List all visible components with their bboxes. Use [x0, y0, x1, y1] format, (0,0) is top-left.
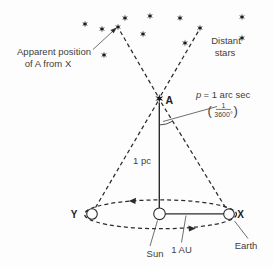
- distant-stars-label-line2: stars: [215, 47, 236, 58]
- distant-star-icon: [115, 24, 121, 31]
- au-label: 1 AU: [171, 244, 192, 255]
- sun-label: Sun: [147, 248, 164, 259]
- distant-star-icon: [197, 25, 203, 32]
- sun-pointer-line: [150, 221, 158, 247]
- distant-star-icon: [182, 40, 188, 47]
- point-y-label: Y: [71, 209, 78, 220]
- orbit-arrow-right-icon: [188, 225, 195, 231]
- fraction-denominator: 3600°: [214, 111, 233, 118]
- star-a-glyph: [155, 94, 163, 103]
- earth-pointer-line: [235, 221, 249, 239]
- sun-circle: [154, 208, 166, 220]
- au-pointer-line: [182, 216, 187, 243]
- apparent-position-label-line2: of A from X: [25, 58, 72, 69]
- star-a-icon: [155, 94, 163, 103]
- apparent-position-label-line1: Apparent position: [17, 46, 91, 57]
- sight-line-a-to-distant-star: [161, 31, 199, 96]
- sight-line-a-to-apparent-star: [120, 30, 158, 96]
- star-a-label: A: [166, 94, 174, 106]
- orbit-arrow-left-icon: [129, 198, 136, 204]
- fraction-numerator: 1: [222, 102, 226, 109]
- fraction-open-paren: (: [208, 103, 213, 118]
- distant-star-icon: [99, 26, 105, 33]
- distant-star-icon: [122, 15, 128, 22]
- point-y-circle: [87, 209, 98, 220]
- parallax-angle-arc: [159, 121, 172, 125]
- parallax-diagram: Apparent position of A from X Distant st…: [0, 0, 273, 267]
- distant-star-icon: [147, 13, 153, 20]
- distant-star-icon: [140, 31, 146, 38]
- point-x-label: X: [237, 209, 244, 220]
- distant-star-icon: [101, 52, 107, 59]
- parallax-label-var: p: [195, 89, 201, 100]
- distant-stars-label-line1: Distant: [211, 35, 241, 46]
- apparent-position-arrow-line: [93, 32, 113, 50]
- fraction-close-paren: ): [234, 103, 238, 118]
- earth-label: Earth: [235, 240, 258, 251]
- parallax-label-value: = 1 arc sec: [204, 89, 251, 100]
- distant-star-icon: [177, 15, 183, 22]
- earth-x-circle: [224, 209, 235, 220]
- distance-label: 1 pc: [133, 155, 151, 166]
- distant-star-icon: [82, 21, 88, 28]
- distant-star-icon: [239, 14, 245, 21]
